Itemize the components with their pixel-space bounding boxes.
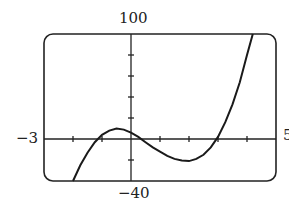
viewing-window-frame [44, 34, 276, 181]
function-curve [73, 34, 253, 181]
ymin-label: −40 [118, 186, 150, 201]
ymax-label: 100 [119, 11, 148, 26]
xmax-label: 5 [283, 128, 289, 143]
xmin-label: −3 [16, 131, 38, 146]
axes [44, 34, 276, 181]
graph-svg [0, 0, 289, 206]
